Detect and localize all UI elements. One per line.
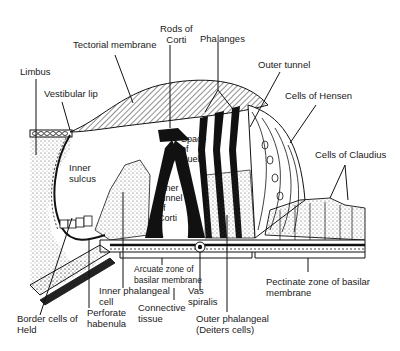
- label-tectorial-membrane: Tectorial membrane: [73, 40, 156, 51]
- label-vestibular-lip: Vestibular lip: [44, 89, 98, 100]
- label-outer-tunnel: Outer tunnel: [258, 60, 310, 71]
- label-border-cells-of-held: Border cells of Held: [17, 314, 78, 335]
- label-outer-phalangeal: Outer phalangeal (Deiters cells): [196, 314, 269, 335]
- label-arcuate-zone: Arcuate zone of basilar membrane: [134, 264, 202, 285]
- label-cells-of-hensen: Cells of Hensen: [285, 91, 352, 102]
- label-vas-spiralis: Vas spiralis: [188, 286, 218, 307]
- label-limbus: Limbus: [20, 67, 51, 78]
- label-inner-tunnel-of-corti: Inner tunnel of Corti: [158, 183, 183, 223]
- deiters-region: [205, 170, 255, 238]
- label-space-of-nuel: Space of Nuel: [181, 134, 207, 164]
- label-pectinate-zone: Pectinate zone of basilar membrane: [266, 277, 370, 298]
- organ-of-corti-diagram: Tectorial membrane Rods of Corti Phalang…: [0, 0, 400, 351]
- label-cells-of-claudius: Cells of Claudius: [315, 150, 386, 161]
- label-perforate-habenula: Perforate habenula: [87, 308, 126, 329]
- label-inner-sulcus: Inner sulcus: [69, 163, 96, 184]
- label-rods-of-corti: Rods of Corti: [160, 24, 193, 45]
- label-connective-tissue: Connective tissue: [138, 303, 186, 324]
- label-phalanges: Phalanges: [200, 34, 245, 45]
